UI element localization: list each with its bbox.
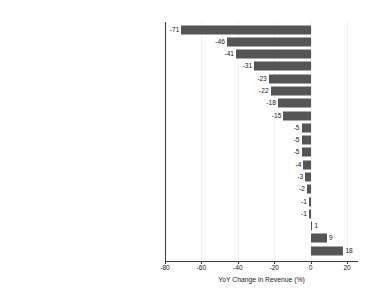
bar — [311, 222, 313, 231]
bar-value-label: -5 — [294, 149, 300, 156]
bar-value-label: -1 — [301, 211, 307, 218]
bar-value-label: 1 — [314, 223, 318, 230]
bar-row: Arts, Entertainment, and Recreation-71 — [165, 23, 358, 36]
bar — [254, 62, 310, 71]
bar-value-label: -5 — [294, 137, 300, 144]
bar-row: Real Estate-15 — [165, 109, 358, 122]
plot-area: Arts, Entertainment, and Recreation-71Mi… — [165, 22, 358, 261]
bar — [302, 136, 311, 145]
bar — [303, 160, 310, 169]
bar — [283, 111, 310, 120]
bar — [309, 197, 311, 206]
bar-value-label: -23 — [257, 75, 267, 82]
bar — [278, 99, 311, 108]
bar-value-label: -41 — [224, 51, 234, 58]
x-axis-spine — [165, 261, 358, 262]
bar-row: Construction9 — [165, 232, 358, 245]
bar-row: Educational Services-4 — [165, 158, 358, 171]
bar-value-label: -5 — [294, 125, 300, 132]
bar — [181, 25, 310, 34]
bar — [227, 37, 311, 46]
bar-row: Professional and Scientific Services-5 — [165, 134, 358, 147]
bar-value-label: -18 — [266, 100, 276, 107]
x-tick-label: -60 — [197, 265, 207, 272]
bar-row: Public Administration-5 — [165, 146, 358, 159]
bar — [271, 87, 311, 96]
bar-row: Admin, Support, and Waste Management-3 — [165, 170, 358, 183]
bar-row: Manufacturing18 — [165, 244, 358, 257]
bar-value-label: 18 — [345, 247, 352, 254]
bar-row: Wholesale Trade-18 — [165, 97, 358, 110]
bar — [311, 234, 327, 243]
bar-row: Agriculture, Forestry, Fishing-31 — [165, 60, 358, 73]
bar — [309, 209, 311, 218]
bar — [311, 246, 344, 255]
bar-row: Accommodation and Food Services-41 — [165, 48, 358, 61]
bar-row: Transportation and Warehousing-23 — [165, 72, 358, 85]
x-tick-label: 0 — [309, 265, 313, 272]
x-tick-label: 20 — [343, 265, 350, 272]
bar-row: Utilities-1 — [165, 207, 358, 220]
bar-value-label: 9 — [329, 235, 333, 242]
bar-row: Other Services-22 — [165, 84, 358, 97]
bar-value-label: -1 — [301, 198, 307, 205]
x-axis-label: YoY Change in Revenue (%) — [165, 277, 358, 284]
bar-row: Mining, Quarrying, and Oil/Gas-46 — [165, 35, 358, 48]
bar — [305, 173, 310, 182]
bar-row: Finance and Insurnace-5 — [165, 121, 358, 134]
bar-value-label: -15 — [272, 112, 282, 119]
bar-value-label: -46 — [215, 39, 225, 46]
bar — [269, 74, 311, 83]
bar-value-label: -2 — [299, 186, 305, 193]
bar — [307, 185, 311, 194]
bar-value-label: -31 — [243, 63, 253, 70]
x-tick-label: -20 — [269, 265, 279, 272]
x-tick-label: -80 — [160, 265, 170, 272]
bar-row: Retail Trade-2 — [165, 183, 358, 196]
bar-row: Information1 — [165, 220, 358, 233]
bar — [236, 50, 311, 59]
bar-value-label: -4 — [296, 161, 302, 168]
x-tick-label: -40 — [233, 265, 243, 272]
bar — [302, 123, 311, 132]
chart-figure: Arts, Entertainment, and Recreation-71Mi… — [0, 0, 387, 302]
bar — [302, 148, 311, 157]
bar-value-label: -71 — [170, 26, 180, 33]
bar-value-label: -3 — [297, 174, 303, 181]
bar-row: Health Care-1 — [165, 195, 358, 208]
bar-value-label: -22 — [259, 88, 269, 95]
